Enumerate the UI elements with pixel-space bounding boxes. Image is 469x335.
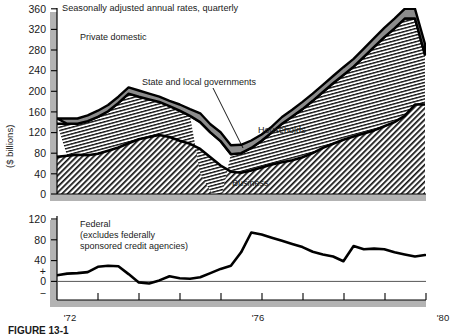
upper-ytick-40: 40 — [34, 168, 46, 180]
lower-ytick-120: 120 — [28, 213, 46, 225]
state-local-label: State and local governments — [142, 77, 257, 87]
lower-ytick-0: 0 — [40, 275, 46, 287]
upper-ytick-240: 240 — [28, 64, 46, 76]
lower-ytick-minus: − — [40, 287, 46, 299]
lower-ytick-80: 80 — [34, 234, 46, 246]
upper-ytick-0: 0 — [40, 188, 46, 200]
upper-ytick-80: 80 — [34, 147, 46, 159]
private-domestic-label: Private domestic — [80, 32, 147, 42]
xtick-1972: '72 — [64, 312, 76, 323]
federal-label-line3: sponsored credit agencies) — [80, 241, 188, 251]
xtick-1980: '80 — [437, 312, 449, 323]
federal-label-line2: (excludes federally — [80, 230, 156, 240]
federal-label-line1: Federal — [80, 219, 111, 229]
y-axis-title: ($ billions) — [4, 125, 15, 168]
upper-ytick-280: 280 — [28, 44, 46, 56]
upper-ytick-200: 200 — [28, 85, 46, 97]
upper-ytick-320: 320 — [28, 23, 46, 35]
households-label: Households — [258, 125, 306, 135]
figure-caption: FIGURE 13-1 — [8, 325, 69, 335]
upper-ytick-120: 120 — [28, 126, 46, 138]
figure-container: 360 320 280 240 200 160 120 80 40 0 Seas… — [0, 0, 469, 335]
chart-subtitle: Seasonally adjusted annual rates, quarte… — [62, 3, 239, 13]
business-label: Business — [232, 178, 269, 188]
xtick-1976: '76 — [252, 312, 264, 323]
upper-ytick-360: 360 — [28, 3, 46, 15]
credit-markets-figure: 360 320 280 240 200 160 120 80 40 0 Seas… — [0, 0, 469, 335]
upper-ytick-160: 160 — [28, 106, 46, 118]
